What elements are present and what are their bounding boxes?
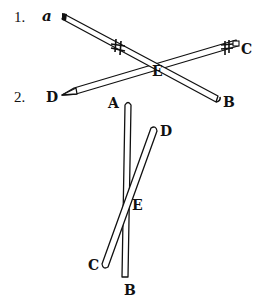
diagram-canvas: 1. E <box>0 0 256 302</box>
figure-2-label-a: A <box>107 95 120 111</box>
figure-2-label-b: B <box>124 282 136 298</box>
rod-dc-body <box>62 40 238 95</box>
figure-1: 1. E <box>14 7 252 110</box>
rod-dc-tip <box>62 88 77 95</box>
figure-2: 2. A D E C B <box>14 89 172 298</box>
figure-2-label-c: C <box>88 257 99 273</box>
figure-1-number: 1. <box>14 9 25 25</box>
figure-1-label-e: E <box>152 63 163 79</box>
rod-dc <box>62 40 238 95</box>
figure-2-label-e: E <box>132 197 143 213</box>
figure-1-label-d: D <box>46 89 58 105</box>
figure-2-number: 2. <box>14 89 25 105</box>
figure-1-label-b: B <box>223 94 235 110</box>
figure-2-label-d: D <box>160 123 172 139</box>
figure-1-label-a: a <box>42 7 52 25</box>
figure-1-label-c: C <box>241 41 252 57</box>
